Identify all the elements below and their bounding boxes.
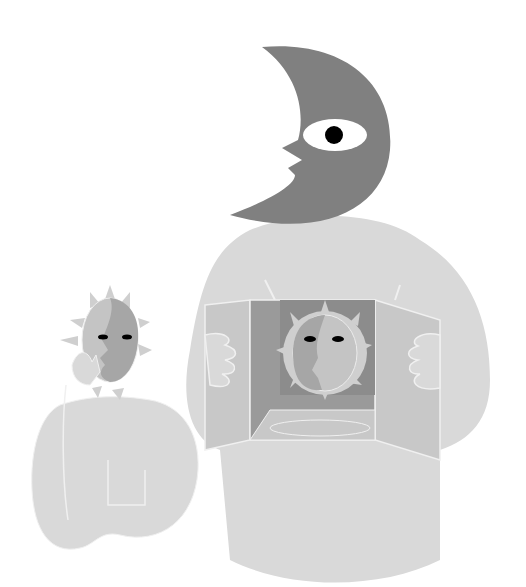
small-sun-face — [60, 285, 152, 400]
small-figure-hand — [72, 353, 100, 385]
illustration-canvas — [0, 0, 526, 587]
small-figure-body — [32, 397, 198, 549]
moon-pupil — [325, 126, 343, 144]
